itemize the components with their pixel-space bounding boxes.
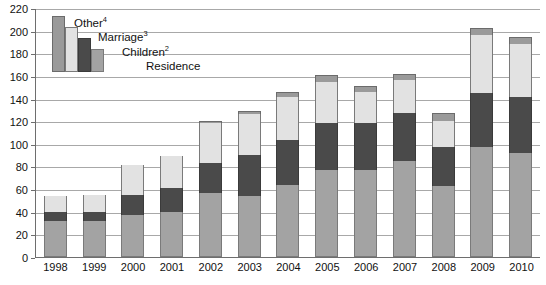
bar-segment-other [470,28,493,35]
legend-text-other: Other [74,17,103,29]
bar-segment-marriage [470,35,493,93]
stacked-bar[interactable] [199,121,222,257]
legend-sup-other: 4 [103,15,107,24]
legend-swatch-residence [91,49,104,72]
x-axis-tick-label: 2002 [193,262,229,282]
bar-segment-children [315,123,338,169]
stacked-bar[interactable] [238,111,261,257]
bar-segment-children [238,155,261,196]
stacked-bar[interactable] [315,75,338,257]
bar-group [425,9,461,257]
legend-label-other: Other4 [74,16,107,29]
bar-segment-children [44,212,67,221]
stacked-bar[interactable] [83,195,106,257]
bar-segment-residence [238,196,261,257]
x-axis-tick-label: 2007 [387,262,423,282]
y-axis-tick-label: 180 [0,49,28,60]
stacked-bar[interactable] [276,92,299,257]
bar-segment-other [509,37,532,44]
bar-segment-marriage [44,196,67,212]
y-axis-tick-mark [31,258,35,259]
bar-group [386,9,422,257]
x-axis-tick-label: 2010 [504,262,540,282]
x-axis-tick-label: 1998 [38,262,74,282]
legend-text-residence: Residence [146,60,200,72]
bar-segment-children [276,140,299,184]
bar-group [503,9,539,257]
bar-segment-marriage [315,82,338,124]
y-axis-tick-label: 60 [0,185,28,196]
legend-swatch-other [52,16,65,72]
x-axis-tick-label: 2000 [115,262,151,282]
x-axis-tick-label: 2001 [154,262,190,282]
bar-segment-marriage [276,97,299,140]
stacked-bar[interactable] [470,28,493,257]
bar-segment-residence [160,212,183,257]
bar-segment-marriage [160,156,183,188]
bar-segment-other [393,74,416,81]
legend-label-children: Children2 [122,45,169,58]
bar-segment-residence [393,161,416,257]
x-axis-labels: 1998199920002001200220032004200520062007… [36,262,541,282]
bar-segment-marriage [238,114,261,155]
bar-segment-residence [121,215,144,257]
bar-group [270,9,306,257]
bar-segment-residence [315,170,338,257]
y-axis-tick-label: 0 [0,253,28,264]
bar-segment-residence [432,186,455,257]
legend-sup-children: 2 [165,44,169,53]
x-axis-tick-label: 2004 [271,262,307,282]
legend-swatch-marriage [65,27,78,72]
bar-segment-marriage [83,195,106,212]
bar-segment-other [432,113,455,121]
stacked-bar[interactable] [160,156,183,257]
stacked-bar[interactable] [44,196,67,257]
bar-segment-children [354,123,377,169]
legend-sup-marriage: 3 [143,29,147,38]
bar-group [309,9,345,257]
y-axis-tick-label: 100 [0,140,28,151]
y-axis-tick-label: 140 [0,95,28,106]
stacked-bar[interactable] [432,113,455,257]
stacked-bar[interactable] [121,165,144,257]
y-axis-tick-label: 120 [0,117,28,128]
y-axis-tick-label: 200 [0,27,28,38]
bar-segment-residence [83,221,106,257]
bar-segment-residence [354,170,377,257]
chart-legend: Other4 Marriage3 Children2 Residence [52,14,272,72]
bar-segment-children [509,97,532,152]
y-axis-tick-label: 220 [0,4,28,15]
legend-text-marriage: Marriage [98,31,143,43]
bar-segment-residence [199,193,222,258]
bar-segment-residence [470,147,493,257]
bar-segment-children [160,188,183,212]
bar-segment-children [199,163,222,192]
bar-segment-children [470,93,493,147]
stacked-bar-chart: 020406080100120140160180200220 199819992… [0,0,546,285]
bar-segment-marriage [393,80,416,113]
bar-segment-children [432,147,455,185]
bar-segment-children [121,195,144,215]
bar-segment-residence [276,185,299,257]
stacked-bar[interactable] [509,37,532,257]
bar-segment-residence [509,153,532,257]
legend-swatch-children [78,38,91,72]
bar-segment-other [315,75,338,82]
bar-segment-children [393,113,416,161]
legend-label-residence: Residence [146,59,200,72]
x-axis-tick-label: 2009 [465,262,501,282]
bar-group [464,9,500,257]
x-axis-tick-label: 2003 [232,262,268,282]
y-axis-tick-label: 80 [0,162,28,173]
bar-segment-children [83,212,106,221]
legend-label-marriage: Marriage3 [98,30,148,43]
bar-segment-marriage [509,44,532,97]
stacked-bar[interactable] [393,74,416,257]
bar-segment-marriage [121,165,144,194]
bar-segment-marriage [432,121,455,147]
bar-segment-marriage [199,123,222,163]
stacked-bar[interactable] [354,86,377,257]
x-axis-tick-label: 2006 [348,262,384,282]
y-axis-tick-label: 160 [0,72,28,83]
x-axis-line [35,257,540,258]
